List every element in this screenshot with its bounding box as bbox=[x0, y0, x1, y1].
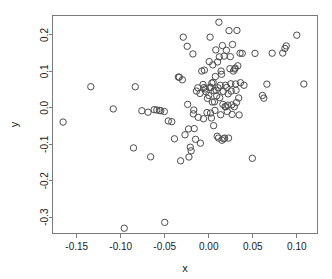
data-point bbox=[226, 27, 232, 33]
y-axis-title: y bbox=[8, 121, 20, 127]
data-point bbox=[110, 106, 116, 112]
data-point bbox=[213, 47, 219, 53]
data-point bbox=[252, 50, 258, 56]
data-point bbox=[234, 27, 240, 33]
data-point bbox=[229, 111, 235, 117]
data-point bbox=[145, 109, 151, 115]
data-point bbox=[224, 84, 230, 90]
data-point bbox=[227, 53, 233, 59]
data-point bbox=[121, 225, 127, 231]
x-tick-label: 0.00 bbox=[199, 241, 219, 252]
data-point bbox=[217, 112, 223, 118]
y-tick-label: -0.1 bbox=[39, 135, 50, 153]
data-point bbox=[180, 34, 186, 40]
data-point bbox=[197, 140, 203, 146]
data-point bbox=[88, 84, 94, 90]
data-point bbox=[190, 51, 196, 57]
data-point bbox=[223, 47, 229, 53]
data-point bbox=[184, 101, 190, 107]
data-point bbox=[186, 154, 192, 160]
data-point bbox=[60, 119, 66, 125]
y-tick-label: -0.2 bbox=[39, 172, 50, 190]
x-tick-label: -0.15 bbox=[65, 241, 88, 252]
y-tick-label: 0.1 bbox=[39, 64, 50, 78]
data-point bbox=[162, 219, 168, 225]
data-point bbox=[269, 50, 275, 56]
data-point bbox=[249, 155, 255, 161]
data-point bbox=[301, 81, 307, 87]
data-point bbox=[139, 108, 145, 114]
x-tick-label: 0.05 bbox=[243, 241, 263, 252]
x-tick-label: -0.10 bbox=[109, 241, 132, 252]
data-point bbox=[147, 154, 153, 160]
x-tick-label: -0.05 bbox=[153, 241, 176, 252]
scatter-plot-figure: -0.15-0.10-0.050.000.050.100.20.10.0-0.1… bbox=[0, 0, 332, 279]
data-point bbox=[294, 32, 300, 38]
data-point bbox=[132, 84, 138, 90]
data-point bbox=[177, 158, 183, 164]
data-point bbox=[212, 73, 218, 79]
data-point bbox=[182, 132, 188, 138]
data-point bbox=[188, 148, 194, 154]
data-point bbox=[229, 41, 235, 47]
y-tick-label: 0.0 bbox=[39, 100, 50, 114]
data-point bbox=[171, 136, 177, 142]
data-point bbox=[207, 34, 213, 40]
data-point bbox=[191, 107, 197, 113]
y-tick-label: 0.2 bbox=[39, 28, 50, 42]
x-axis-title: x bbox=[182, 262, 188, 274]
data-point bbox=[236, 112, 242, 118]
data-point bbox=[210, 122, 216, 128]
data-point bbox=[264, 81, 270, 87]
x-tick-label: 0.10 bbox=[287, 241, 307, 252]
data-point bbox=[184, 43, 190, 49]
plot-canvas: -0.15-0.10-0.050.000.050.100.20.10.0-0.1… bbox=[0, 0, 332, 279]
y-tick-label: -0.3 bbox=[39, 208, 50, 226]
data-point bbox=[130, 145, 136, 151]
data-point-group bbox=[60, 19, 307, 231]
data-point bbox=[216, 19, 222, 25]
